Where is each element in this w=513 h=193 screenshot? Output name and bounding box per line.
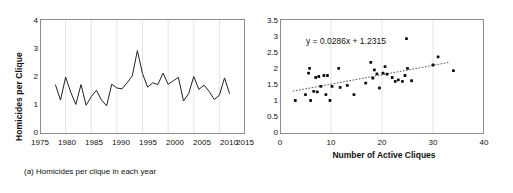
- panel-a-ytick-2: 2: [22, 72, 38, 81]
- panel-b-xtick-30: 30: [423, 138, 443, 147]
- panel-b-ytick-1-5: 1.5: [256, 80, 278, 89]
- panel-a-xtick-1985: 1985: [80, 138, 108, 147]
- panel-b-xtick-40: 40: [474, 138, 494, 147]
- panel-a-xtick-1990: 1990: [107, 138, 135, 147]
- panel-a-ytick-3: 3: [22, 44, 38, 53]
- panel-a-xtick-1995: 1995: [134, 138, 162, 147]
- panel-a-xtick-2000: 2000: [161, 138, 189, 147]
- panel-b-x-axis-title: Number of Active Cliques: [284, 150, 484, 160]
- panel-a-ytick-1: 1: [22, 100, 38, 109]
- panel-a-xtick-1980: 1980: [53, 138, 81, 147]
- panel-b-ytick-1: 1: [256, 96, 278, 105]
- panel-b-ytick-2: 2: [256, 64, 278, 73]
- panel-b-ytick-3: 3: [256, 32, 278, 41]
- panel-a-xtick-2015: 2015: [231, 138, 259, 147]
- panel-b-xtick-10: 10: [321, 138, 341, 147]
- panel-a-xtick-1975: 1975: [26, 138, 54, 147]
- figure-container: Homicides per Clique 0 1 2 3 4 1975 1980…: [0, 0, 513, 193]
- panel-a-ytick-0: 0: [22, 128, 38, 137]
- panel-a-xtick-2005: 2005: [188, 138, 216, 147]
- panel-b-ytick-0-5: 0.5: [256, 112, 278, 121]
- panel-b-ytick-0: 0: [256, 128, 278, 137]
- panel-b-ytick-2-5: 2.5: [256, 48, 278, 57]
- panel-a-ytick-4: 4: [22, 16, 38, 25]
- panel-a-line-chart: Homicides per Clique 0 1 2 3 4 1975 1980…: [0, 0, 256, 193]
- panel-b-trendline-equation: y = 0.0286x + 1.2315: [306, 36, 386, 46]
- panel-b-xtick-0: 0: [270, 138, 290, 147]
- panel-a-caption: (a) Homicides per clique in each year: [24, 167, 240, 178]
- panel-b-ytick-3-5: 3.5: [256, 16, 278, 25]
- panel-b-scatter-chart: 0 0.5 1 1.5 2 2.5 3 3.5 0 10 20 30 40 y …: [256, 0, 513, 193]
- panel-b-xtick-20: 20: [372, 138, 392, 147]
- panel-a-plot-area: [40, 19, 245, 134]
